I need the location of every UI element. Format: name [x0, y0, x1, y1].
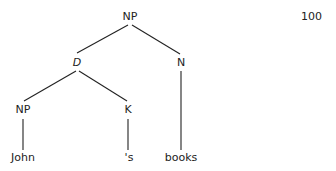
node-np: NP [16, 104, 31, 116]
edge-np-d [77, 25, 128, 53]
node-k: K [124, 104, 131, 116]
leaf-john: John [11, 152, 35, 164]
edge-d-k [79, 71, 127, 101]
edge-d-np [24, 71, 76, 101]
node-n: N [177, 57, 185, 69]
leaf-books: books [165, 152, 198, 164]
leaf-possessive-s: 's [125, 152, 134, 164]
edge-np-n [132, 25, 180, 54]
node-d: D [73, 57, 81, 69]
page-number: 100 [301, 11, 322, 23]
node-np-root: NP [123, 11, 138, 23]
tree-edges [0, 0, 336, 171]
